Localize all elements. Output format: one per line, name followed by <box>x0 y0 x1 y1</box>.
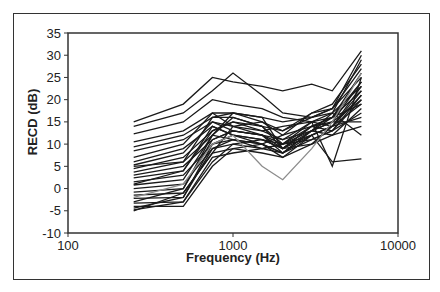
y-tick-label: 15 <box>47 114 61 129</box>
x-tick-label: 10000 <box>380 238 416 253</box>
y-tick-label: 10 <box>47 137 61 152</box>
y-tick-label: 5 <box>54 159 61 174</box>
y-tick-label: 35 <box>47 26 61 41</box>
plot-area <box>68 33 398 233</box>
y-tick-label: 0 <box>54 181 61 196</box>
x-axis-title: Frequency (Hz) <box>186 250 280 265</box>
series-line <box>134 73 362 197</box>
y-tick-label: 25 <box>47 70 61 85</box>
x-tick-label: 100 <box>57 238 79 253</box>
y-tick-label: 30 <box>47 48 61 63</box>
y-axis-title: RECD (dB) <box>25 89 40 155</box>
data-series <box>134 51 362 211</box>
y-axis: 35302520151050-5-10 <box>42 26 68 241</box>
series-line <box>134 69 362 147</box>
y-tick-label: 20 <box>47 92 61 107</box>
line-chart: 35302520151050-5-10 100100010000 Frequen… <box>0 0 440 292</box>
y-tick-label: -5 <box>49 203 61 218</box>
